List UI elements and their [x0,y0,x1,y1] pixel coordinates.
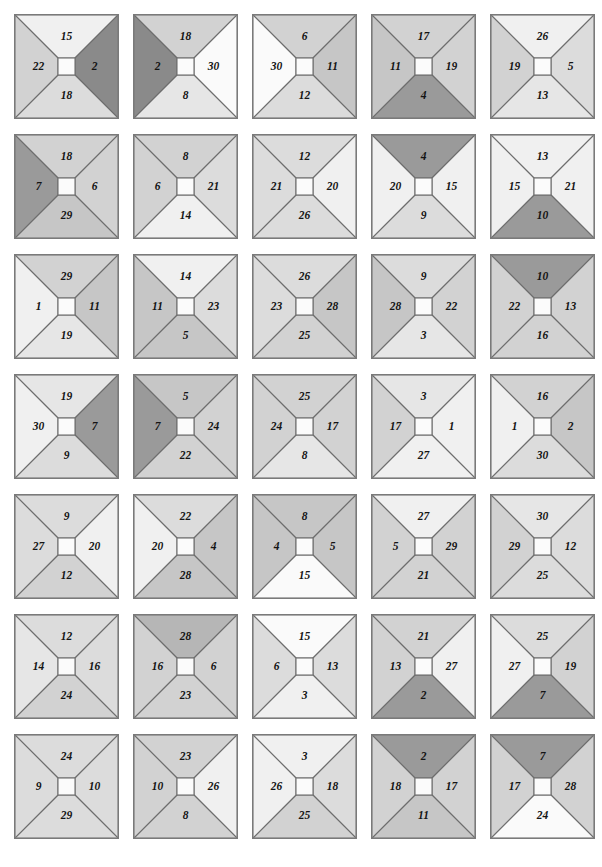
tile-r3-c1: 2911191 [14,254,119,359]
label-top: 25 [298,390,311,402]
label-right: 12 [565,540,577,552]
label-bottom: 3 [420,329,427,341]
label-bottom: 8 [183,809,189,821]
tile-r5-c3: 85154 [252,494,357,599]
tile-r4-c3: 2517824 [252,374,357,479]
label-right: 29 [445,540,458,552]
label-bottom: 10 [537,209,549,221]
label-bottom: 8 [183,89,189,101]
label-top: 5 [183,390,189,402]
label-top: 17 [418,30,431,42]
label-bottom: 2 [420,689,427,701]
center-square [534,58,551,75]
label-top: 26 [298,270,311,282]
label-right: 5 [330,540,336,552]
tile-r3-c2: 1423511 [133,254,238,359]
label-left: 17 [390,420,403,432]
center-square [177,298,194,315]
center-square [415,178,432,195]
label-top: 21 [417,630,430,642]
center-square [415,418,432,435]
label-left: 11 [390,60,401,72]
center-square [415,538,432,555]
label-right: 21 [207,180,220,192]
label-top: 9 [64,510,70,522]
label-left: 22 [32,60,45,72]
label-right: 5 [568,60,574,72]
label-left: 16 [152,660,164,672]
label-left: 1 [36,300,42,312]
label-bottom: 27 [417,449,431,461]
label-right: 30 [207,60,220,72]
center-square [296,418,313,435]
label-right: 11 [89,300,100,312]
tile-r1-c3: 6111230 [252,14,357,119]
label-right: 22 [445,300,458,312]
label-left: 13 [390,660,402,672]
label-top: 12 [299,150,311,162]
label-left: 27 [508,660,522,672]
label-top: 2 [420,750,427,762]
label-left: 20 [151,540,164,552]
tile-r3-c3: 26282523 [252,254,357,359]
label-right: 4 [210,540,217,552]
label-bottom: 24 [60,689,73,701]
tile-r7-c3: 3182526 [252,734,357,839]
center-square [177,178,194,195]
label-bottom: 9 [64,449,70,461]
label-bottom: 13 [537,89,549,101]
label-left: 9 [36,780,42,792]
label-left: 29 [508,540,521,552]
center-square [415,778,432,795]
center-square [58,58,75,75]
label-bottom: 26 [298,209,311,221]
label-right: 23 [207,300,220,312]
tile-r7-c1: 2410299 [14,734,119,839]
label-right: 11 [327,60,338,72]
tile-r6-c5: 2519727 [490,614,595,719]
label-right: 28 [564,780,577,792]
label-right: 19 [565,660,577,672]
tile-r5-c1: 9201227 [14,494,119,599]
label-bottom: 5 [183,329,189,341]
label-top: 9 [421,270,427,282]
label-right: 17 [446,780,459,792]
label-top: 8 [302,510,308,522]
label-left: 5 [393,540,399,552]
label-top: 6 [302,30,308,42]
label-bottom: 25 [536,569,549,581]
center-square [415,58,432,75]
label-top: 4 [420,150,427,162]
tile-r4-c2: 524227 [133,374,238,479]
label-bottom: 3 [301,689,308,701]
tile-r6-c1: 12162414 [14,614,119,719]
label-top: 28 [179,630,192,642]
label-top: 29 [60,270,73,282]
label-right: 6 [211,660,217,672]
label-bottom: 14 [180,209,192,221]
label-left: 6 [155,180,161,192]
center-square [296,178,313,195]
label-top: 23 [179,750,192,762]
label-left: 6 [274,660,280,672]
label-left: 10 [152,780,164,792]
label-left: 30 [270,60,283,72]
label-right: 6 [92,180,98,192]
tile-r5-c2: 2242820 [133,494,238,599]
label-left: 1 [512,420,518,432]
tile-r2-c5: 13211015 [490,134,595,239]
center-square [177,778,194,795]
label-left: 28 [389,300,402,312]
label-bottom: 4 [420,89,427,101]
label-bottom: 8 [302,449,308,461]
tile-r7-c2: 2326810 [133,734,238,839]
label-right: 20 [326,180,339,192]
center-square [415,298,432,315]
label-right: 19 [446,60,458,72]
label-bottom: 16 [537,329,549,341]
label-left: 11 [152,300,163,312]
center-square [58,178,75,195]
label-bottom: 25 [298,809,311,821]
center-square [58,778,75,795]
label-left: 17 [509,780,522,792]
